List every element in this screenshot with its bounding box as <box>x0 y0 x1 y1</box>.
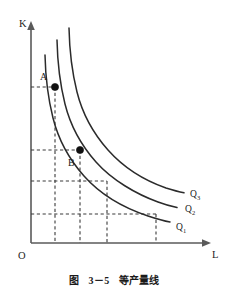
curve-label-q2-subscript: 2 <box>192 209 195 216</box>
caption-title: 等产量线 <box>119 275 160 286</box>
x-axis-label: L <box>212 249 218 260</box>
origin-label: O <box>18 250 26 261</box>
isoquant-curve-q1 <box>45 55 170 222</box>
isoquant-chart: K L O A B Q 3 Q 2 Q 1 <box>0 0 229 299</box>
point-marker-b <box>76 146 83 153</box>
curve-label-q1: Q 1 <box>176 222 186 234</box>
isoquant-curve-q2 <box>57 40 177 208</box>
curve-label-q3-subscript: 3 <box>197 194 200 201</box>
curve-label-q2: Q 2 <box>185 204 195 216</box>
figure-caption: 图3－5等产量线 <box>0 272 229 287</box>
caption-prefix: 图 <box>69 275 79 286</box>
curve-label-q2-base: Q <box>185 204 192 214</box>
curve-label-q1-base: Q <box>176 222 183 232</box>
x-axis-arrow-icon <box>202 239 211 247</box>
point-label-b: B <box>68 157 75 168</box>
point-marker-a <box>51 83 58 90</box>
curve-label-q3-base: Q <box>190 189 197 199</box>
isoquant-figure: K L O A B Q 3 Q 2 Q 1 图3－5等产量线 <box>0 0 229 299</box>
y-axis-label: K <box>19 18 27 29</box>
y-axis-arrow-icon <box>27 21 35 30</box>
caption-number: 3－5 <box>89 275 110 286</box>
curve-label-q3: Q 3 <box>190 189 200 201</box>
curve-label-q1-subscript: 1 <box>183 227 186 234</box>
point-label-a: A <box>40 71 48 82</box>
isoquant-curve-q3 <box>69 28 184 193</box>
